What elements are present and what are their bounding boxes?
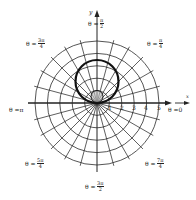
label-theta-3pi-over-4: θ = 3π4 bbox=[26, 38, 45, 49]
polar-graph: y x 1 2 3 4 5 θ = π2 θ = 3π4 θ = π4 θ = … bbox=[0, 0, 196, 200]
y-axis-label: y bbox=[89, 9, 92, 15]
x-tick-3: 3 bbox=[132, 105, 136, 111]
x-axis-arrow-icon bbox=[165, 101, 172, 106]
label-theta-5pi-over-4: θ = 5π4 bbox=[25, 158, 44, 169]
polar-grid bbox=[0, 0, 196, 200]
label-theta-7pi-over-4: θ = 7π4 bbox=[145, 158, 164, 169]
x-axis-label: x bbox=[186, 94, 189, 99]
y-axis-arrow-icon bbox=[95, 10, 100, 17]
small-circle-curve bbox=[91, 91, 103, 103]
label-theta-3pi-over-2: θ = 3π2 bbox=[85, 181, 104, 192]
label-theta-pi-over-2: θ = π2 bbox=[88, 18, 104, 29]
label-theta-pi-over-4: θ = π4 bbox=[147, 38, 163, 49]
x-tick-1: 1 bbox=[108, 105, 112, 111]
label-theta-pi: θ = π bbox=[9, 107, 24, 113]
x-axis-end-arrow-icon bbox=[184, 101, 190, 105]
label-theta-0: θ = 0 bbox=[168, 107, 182, 113]
x-tick-4: 4 bbox=[144, 105, 148, 111]
x-tick-2: 2 bbox=[120, 105, 124, 111]
x-tick-5: 5 bbox=[157, 105, 161, 111]
